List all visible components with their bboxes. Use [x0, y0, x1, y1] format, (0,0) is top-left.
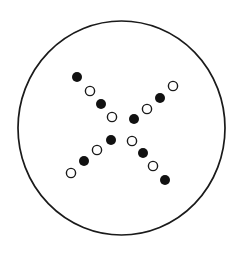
open-dot	[127, 136, 136, 145]
filled-dot	[72, 72, 82, 82]
open-dot	[148, 161, 157, 170]
open-dot	[142, 104, 151, 113]
filled-dot	[96, 99, 106, 109]
filled-dot	[160, 175, 170, 185]
filled-dot	[138, 148, 148, 158]
diagram-figure	[0, 0, 235, 254]
open-dot	[66, 168, 75, 177]
arm-lower-right	[127, 136, 170, 185]
filled-dot	[155, 93, 165, 103]
open-dot	[92, 145, 101, 154]
filled-dot	[106, 135, 116, 145]
arm-upper-right	[129, 81, 178, 124]
arm-lower-left	[66, 135, 116, 178]
filled-dot	[129, 114, 139, 124]
open-dot	[107, 112, 116, 121]
dot-cross	[66, 72, 177, 185]
open-dot	[85, 86, 94, 95]
circle-dot-cross-diagram	[0, 0, 235, 254]
arm-upper-left	[72, 72, 117, 122]
outer-circle	[18, 21, 225, 235]
open-dot	[168, 81, 177, 90]
filled-dot	[79, 156, 89, 166]
